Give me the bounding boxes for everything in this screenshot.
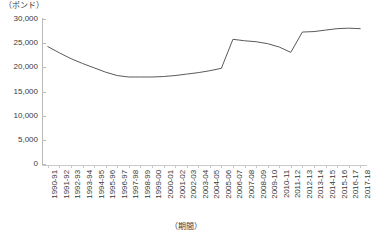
y-axis-tick [42, 43, 46, 44]
y-axis-tick-label: 5,000 [2, 136, 38, 144]
x-axis-tick-label: 2013-14 [317, 170, 325, 199]
x-axis-tick-label: 2001-02 [179, 170, 187, 199]
x-axis-tick [129, 165, 130, 168]
x-axis-tick [302, 165, 303, 168]
y-axis-tick-label: 0 [2, 160, 38, 168]
y-axis-tick-label: 20,000 [2, 63, 38, 71]
x-axis-tick [152, 165, 153, 168]
y-axis-labels: 30,00025,00020,00015,00010,0005,0000 [0, 0, 38, 236]
x-axis-tick [187, 165, 188, 168]
y-axis-tick-label: 25,000 [2, 39, 38, 47]
x-axis-tick [117, 165, 118, 168]
x-axis-tick-label: 1991-92 [63, 170, 71, 199]
x-axis-tick [268, 165, 269, 168]
x-axis-tick-label: 2009-10 [271, 170, 279, 199]
x-axis-tick [94, 165, 95, 168]
x-axis-tick [198, 165, 199, 168]
chart-page: （ポンド） 30,00025,00020,00015,00010,0005,00… [0, 0, 372, 236]
x-axis-tick-label: 2006-07 [236, 170, 244, 199]
x-axis-tick [337, 165, 338, 168]
x-axis-tick-label: 1990-91 [51, 170, 59, 199]
x-axis-tick-label: 2010-11 [283, 170, 291, 198]
x-axis-tick-label: 1993-94 [86, 170, 94, 199]
line-series-path [48, 28, 360, 77]
x-axis-tick [314, 165, 315, 168]
y-axis-tick [42, 164, 46, 165]
x-axis-tick [164, 165, 165, 168]
x-axis-tick-label: 1994-95 [98, 170, 106, 199]
x-axis-tick-label: 2014-15 [329, 170, 337, 199]
x-axis-tick-label: 2007-08 [248, 170, 256, 199]
x-axis-tick [221, 165, 222, 168]
x-axis-line [42, 165, 367, 166]
y-axis-tick [42, 19, 46, 20]
y-axis-tick [42, 92, 46, 93]
x-axis-tick-label: 1999-00 [155, 170, 163, 199]
x-axis-tick [326, 165, 327, 168]
x-axis-tick [106, 165, 107, 168]
x-axis-tick [245, 165, 246, 168]
x-axis-tick-label: 1998-99 [144, 170, 152, 199]
x-axis-tick-label: 1996-97 [121, 170, 129, 199]
x-axis-tick-label: 2000-01 [167, 170, 175, 199]
x-axis-tick [349, 165, 350, 168]
x-axis-tick [140, 165, 141, 168]
x-axis-tick-label: 2017-18 [364, 170, 372, 199]
x-axis-tick-label: 2011-12 [294, 170, 302, 198]
x-axis-tick-label: 2016-17 [352, 170, 360, 199]
y-axis-tick-label: 10,000 [2, 112, 38, 120]
x-axis-tick-label: 1995-96 [109, 170, 117, 199]
x-axis-tick-label: 2002-03 [190, 170, 198, 199]
line-series-svg [0, 0, 372, 236]
x-axis-tick-label: 2015-16 [341, 170, 349, 199]
x-axis-tick-label: 2005-06 [225, 170, 233, 199]
x-axis-tick-label: 2003-04 [202, 170, 210, 199]
y-axis-tick-label: 30,000 [2, 15, 38, 23]
x-axis-tick [59, 165, 60, 168]
x-axis-tick [210, 165, 211, 168]
x-axis-tick-label: 1992-93 [74, 170, 82, 199]
x-axis-tick [233, 165, 234, 168]
x-axis-tick [256, 165, 257, 168]
x-axis-tick [83, 165, 84, 168]
x-axis-tick-label: 2008-09 [260, 170, 268, 199]
x-axis-tick [291, 165, 292, 168]
x-axis-tick-label: 2004-05 [213, 170, 221, 199]
x-axis-tick [360, 165, 361, 168]
y-axis-tick [42, 67, 46, 68]
y-axis-tick-label: 15,000 [2, 88, 38, 96]
x-axis-tick [175, 165, 176, 168]
x-axis-tick [279, 165, 280, 168]
x-axis-tick [71, 165, 72, 168]
y-axis-tick [42, 116, 46, 117]
x-axis-tick-label: 2012-13 [306, 170, 314, 199]
y-axis-tick [42, 140, 46, 141]
x-axis-title: （期間） [0, 222, 372, 231]
x-axis-tick [48, 165, 49, 168]
x-axis-tick-label: 1997-98 [132, 170, 140, 199]
